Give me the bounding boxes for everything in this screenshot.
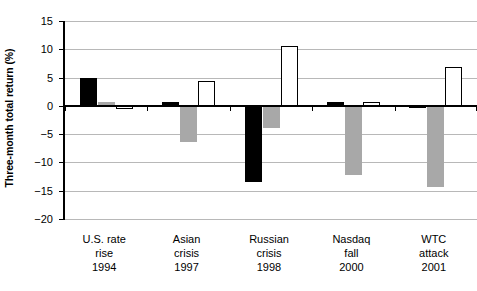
- category-label-line: 2001: [384, 260, 477, 274]
- gridline: [65, 134, 477, 135]
- x-axis-minor-tick: [312, 106, 313, 111]
- y-axis-tick-label: 0: [11, 101, 53, 112]
- y-axis-tick-label: 10: [11, 44, 53, 55]
- y-axis-tick-label: −20: [11, 214, 53, 225]
- y-axis-tick: [59, 191, 65, 192]
- bar-series-gray-1: [180, 106, 197, 142]
- y-axis-tick: [59, 78, 65, 79]
- plot-area: [63, 21, 477, 219]
- y-axis-tick: [59, 134, 65, 135]
- bar-series-black-0: [80, 78, 97, 106]
- bar-series-white-2: [281, 46, 298, 106]
- gridline: [65, 162, 477, 163]
- y-axis-tick: [59, 162, 65, 163]
- x-axis-minor-tick: [65, 106, 66, 111]
- x-axis-minor-tick: [395, 106, 396, 111]
- gridline: [65, 219, 477, 220]
- category-label-4: WTCattack2001: [384, 232, 477, 274]
- chart-figure: Three-month total return (%) 151050−5−10…: [0, 0, 477, 291]
- y-axis-tick-label: 5: [11, 73, 53, 84]
- y-axis-tick: [59, 49, 65, 50]
- y-axis-tick-label: −5: [11, 129, 53, 140]
- category-label-line: attack: [384, 246, 477, 260]
- y-axis-tick-label: −10: [11, 157, 53, 168]
- y-axis-tick: [59, 219, 65, 220]
- gridline: [65, 78, 477, 79]
- gridline: [65, 49, 477, 50]
- zero-baseline: [65, 105, 477, 107]
- bar-series-gray-4: [427, 106, 444, 187]
- bar-series-black-2: [245, 106, 262, 182]
- category-label-line: WTC: [384, 232, 477, 246]
- bar-series-gray-2: [263, 106, 280, 129]
- y-axis-tick: [59, 21, 65, 22]
- y-axis-tick-label: 15: [11, 16, 53, 27]
- y-axis-tick-label: −15: [11, 186, 53, 197]
- gridline: [65, 21, 477, 22]
- bar-series-gray-3: [345, 106, 362, 175]
- bar-series-white-1: [198, 81, 215, 106]
- x-axis-minor-tick: [230, 106, 231, 111]
- bar-series-white-4: [445, 67, 462, 106]
- gridline: [65, 191, 477, 192]
- x-axis-minor-tick: [147, 106, 148, 111]
